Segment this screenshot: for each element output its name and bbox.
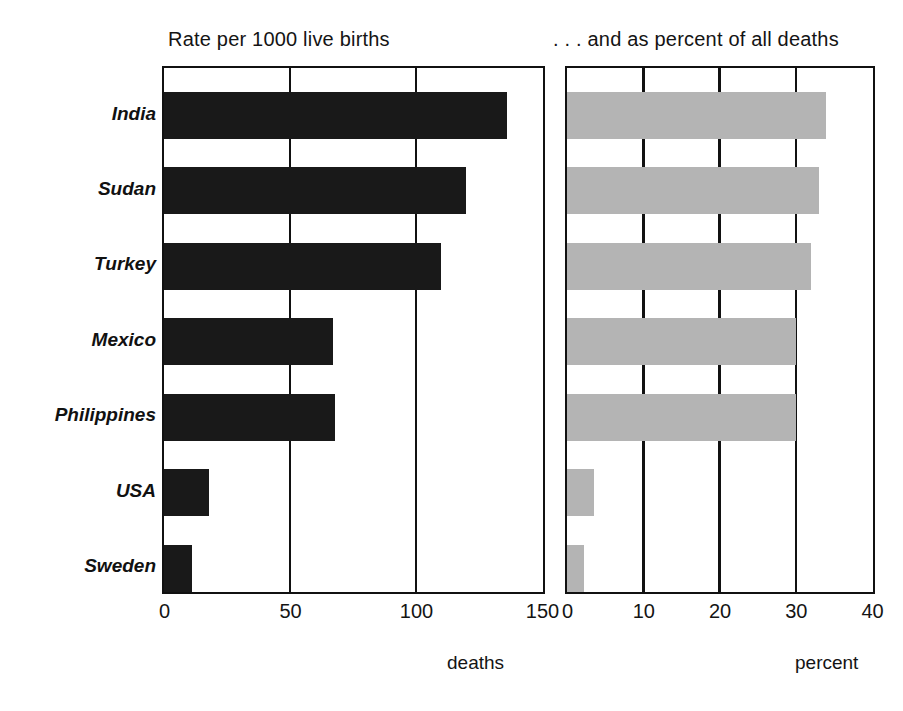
infant-mortality-figure: Rate per 1000 live births . . . and as p… — [0, 0, 903, 711]
bar-india — [164, 92, 507, 139]
bar-turkey — [567, 243, 811, 290]
right-axis-unit-label: percent — [795, 652, 858, 674]
left-plot-area — [164, 68, 543, 592]
bar-mexico — [164, 318, 333, 365]
category-label-india: India — [112, 104, 156, 124]
tick-label-100: 100 — [400, 600, 433, 623]
right-panel-title: . . . and as percent of all deaths — [553, 28, 839, 51]
bar-sudan — [567, 167, 819, 214]
bar-india — [567, 92, 826, 139]
bar-sudan — [164, 167, 466, 214]
tick-label-0: 0 — [562, 600, 573, 623]
tick-label-20: 20 — [709, 600, 731, 623]
category-label-sweden: Sweden — [84, 556, 156, 576]
bar-turkey — [164, 243, 441, 290]
bar-sweden — [164, 545, 192, 592]
tick-label-50: 50 — [279, 600, 301, 623]
category-label-usa: USA — [116, 481, 156, 501]
right-plot-area — [567, 68, 873, 592]
bar-mexico — [567, 318, 796, 365]
bar-usa — [164, 469, 209, 516]
bar-philippines — [567, 394, 796, 441]
tick-label-10: 10 — [633, 600, 655, 623]
tick-label-150: 150 — [526, 600, 559, 623]
right-plot-panel — [565, 66, 875, 594]
bar-usa — [567, 469, 594, 516]
category-label-sudan: Sudan — [98, 179, 156, 199]
bar-sweden — [567, 545, 584, 592]
tick-label-40: 40 — [861, 600, 883, 623]
category-label-philippines: Philippines — [55, 405, 156, 425]
left-plot-panel — [162, 66, 545, 594]
tick-label-30: 30 — [785, 600, 807, 623]
tick-label-0: 0 — [159, 600, 170, 623]
category-label-mexico: Mexico — [92, 330, 156, 350]
category-axis-labels: IndiaSudanTurkeyMexicoPhilippinesUSASwed… — [14, 66, 162, 594]
bar-philippines — [164, 394, 335, 441]
left-panel-title: Rate per 1000 live births — [168, 28, 390, 51]
left-axis-unit-label: deaths — [447, 652, 504, 674]
gridline-100 — [415, 68, 418, 592]
category-label-turkey: Turkey — [94, 254, 156, 274]
